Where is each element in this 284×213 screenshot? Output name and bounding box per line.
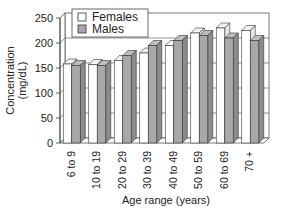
legend-swatch-females — [78, 13, 86, 21]
x-tick-label: 20 to 29 — [116, 151, 128, 189]
y-axis-title-line1: Concentration — [4, 46, 16, 115]
legend-swatch-males — [78, 25, 86, 33]
bar-males — [199, 36, 208, 144]
x-axis: 6 to 910 to 1920 to 2930 to 3940 to 4950… — [65, 151, 256, 189]
bar-females — [140, 53, 149, 143]
bar-side-males — [259, 36, 264, 144]
bar-side-males — [157, 41, 162, 144]
y-axis-title-line2: (mg/dL) — [16, 62, 28, 100]
x-tick-label: 50 to 59 — [192, 151, 204, 189]
bar-side-males — [233, 33, 238, 143]
x-tick-label: 30 to 39 — [141, 151, 153, 189]
y-tick-label: 200 — [35, 37, 53, 49]
y-tick-label: 100 — [35, 87, 53, 99]
bar-males — [123, 56, 132, 144]
y-tick-label: 50 — [41, 112, 53, 124]
y-tick-label: 250 — [35, 12, 53, 24]
bar-males — [97, 66, 106, 144]
x-tick-label: 6 to 9 — [65, 151, 77, 177]
x-tick-label: 40 to 49 — [167, 151, 179, 189]
bar-females — [242, 31, 251, 144]
bar-males — [174, 41, 183, 144]
bar-females — [89, 65, 98, 144]
bar-males — [148, 46, 157, 144]
bar-side-males — [106, 61, 111, 144]
bar-side-males — [182, 36, 187, 144]
bar-males — [225, 38, 234, 143]
x-tick-label: 70 + — [243, 151, 255, 172]
x-tick-label: 10 to 19 — [90, 151, 102, 189]
y-tick-label: 0 — [47, 137, 53, 149]
bar-side-males — [80, 61, 85, 144]
bar-side-males — [131, 51, 136, 144]
legend-label-males: Males — [92, 22, 124, 36]
bar-side-males — [208, 31, 213, 144]
x-axis-title: Age range (years) — [122, 194, 210, 206]
y-tick-label: 150 — [35, 62, 53, 74]
bar-females — [63, 64, 72, 143]
bar-females — [165, 46, 174, 144]
x-tick-label: 60 to 69 — [218, 151, 230, 189]
bar-females — [114, 61, 123, 144]
bar-males — [250, 41, 259, 144]
chart: 050100150200250 6 to 910 to 1920 to 2930… — [0, 0, 284, 213]
legend: Females Males — [72, 9, 148, 37]
bar-females — [216, 28, 225, 143]
y-axis: 050100150200250 — [35, 12, 60, 149]
bar-females — [191, 33, 200, 143]
bar-males — [72, 66, 81, 144]
